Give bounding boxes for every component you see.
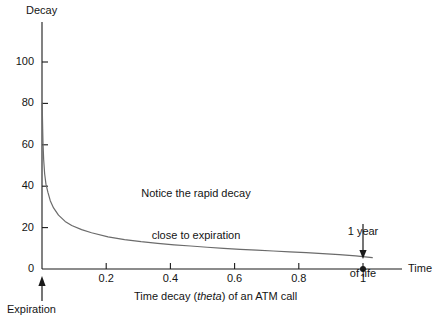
x-tick-label-0.4: 0.4 [155, 272, 185, 285]
expiration-arrowhead-icon [38, 276, 45, 286]
rapid-decay-annotation-line2: close to expiration [116, 228, 276, 242]
figure-caption: Time decay (theta) of an ATM call [134, 290, 297, 303]
y-axis-title: Decay [26, 4, 57, 17]
x-axis-title: Time [408, 262, 432, 275]
figure-caption-italic: theta [197, 290, 221, 302]
y-tick-label-20: 20 [8, 221, 34, 234]
rapid-decay-annotation-line1: Notice the rapid decay [116, 186, 276, 200]
y-tick-label-100: 100 [8, 55, 34, 68]
x-tick-label-0.6: 0.6 [220, 272, 250, 285]
y-tick-label-0: 0 [8, 262, 34, 275]
x-tick-label-0.8: 0.8 [284, 272, 314, 285]
figure-caption-after: ) of an ATM call [222, 290, 298, 302]
one-year-annotation-line2: of life [330, 266, 396, 280]
one-year-annotation-line1: 1 year [330, 224, 396, 238]
expiration-annotation: Expiration [7, 303, 56, 316]
one-year-annotation: 1 year of life [330, 196, 396, 308]
y-tick-label-40: 40 [8, 179, 34, 192]
rapid-decay-annotation: Notice the rapid decay close to expirati… [116, 158, 276, 270]
chart-figure: Decay Time 100 80 60 40 20 0 0.2 0.4 0.6… [0, 0, 445, 327]
x-tick-label-0.2: 0.2 [91, 272, 121, 285]
y-tick-label-80: 80 [8, 96, 34, 109]
figure-caption-before: Time decay ( [134, 290, 197, 302]
y-tick-label-60: 60 [8, 138, 34, 151]
